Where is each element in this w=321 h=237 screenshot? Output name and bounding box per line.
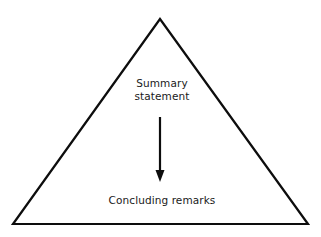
summary-statement-label: Summary statement (3, 77, 321, 102)
down-arrow-head (156, 170, 165, 182)
summary-statement-line-1: Summary (3, 77, 321, 90)
summary-statement-line-2: statement (3, 90, 321, 103)
diagram-canvas: Summary statement Concluding remarks (0, 0, 321, 237)
concluding-remarks-label: Concluding remarks (3, 194, 321, 207)
